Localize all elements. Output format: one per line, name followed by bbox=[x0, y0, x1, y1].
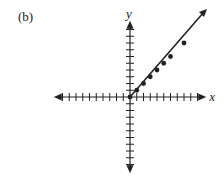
data-point bbox=[141, 81, 146, 86]
y-axis-down-arrow-icon bbox=[127, 165, 134, 173]
x-axis-right-arrow-icon bbox=[198, 94, 206, 101]
y-axis-label: y bbox=[124, 6, 132, 21]
data-point bbox=[148, 74, 153, 79]
y-axis-up-arrow-icon bbox=[127, 21, 134, 29]
data-point bbox=[168, 54, 173, 59]
coordinate-plane: xy bbox=[0, 0, 224, 196]
ray-line bbox=[130, 12, 204, 97]
data-point bbox=[134, 88, 139, 93]
data-point bbox=[182, 41, 187, 46]
data-point bbox=[161, 61, 166, 66]
x-axis-label: x bbox=[208, 89, 215, 104]
x-axis-left-arrow-icon bbox=[54, 94, 62, 101]
data-point bbox=[128, 95, 133, 100]
data-point bbox=[155, 68, 160, 73]
